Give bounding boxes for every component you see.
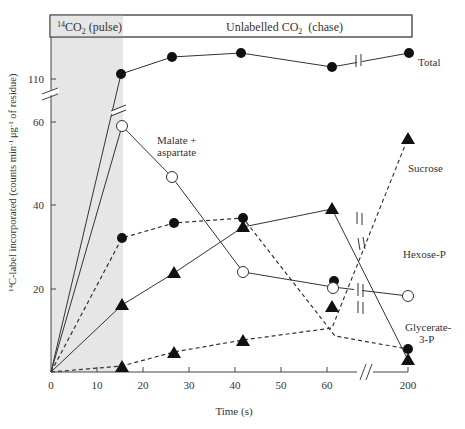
x-tick-label: 50 (276, 379, 288, 391)
x-tick-label: 60 (322, 379, 334, 391)
y-tick-label: 60 (33, 116, 45, 128)
markers-sucrose (115, 132, 415, 372)
pulse-shaded-region (51, 37, 123, 372)
x-tick-label: 0 (48, 379, 54, 391)
glycerate-break-icon (358, 301, 363, 314)
label-glycerate-line1: Glycerate- (405, 321, 452, 333)
markers-total (116, 48, 414, 79)
chase-label: Unlabelled CO2 (chase) (226, 20, 343, 36)
x-tick-label: 20 (138, 379, 150, 391)
y-axis-label: 14C-label incorporated (counts min-1μg-1… (7, 73, 19, 292)
y-tick-label: 40 (33, 199, 45, 211)
x-tick-label: 30 (184, 379, 196, 391)
x-tick-label: 10 (92, 379, 104, 391)
label-sucrose: Sucrose (408, 162, 443, 174)
chart: 14CO2 (pulse) Unlabelled CO2 (chase) 20 … (0, 0, 465, 429)
x-tick-label: 200 (400, 379, 417, 391)
label-malate-line2: aspartate (157, 146, 196, 158)
x-tick-label: 40 (230, 379, 242, 391)
markers-glycerate-3-p (117, 213, 413, 354)
y-tick-label: 20 (33, 283, 45, 295)
marker-malate-60 (328, 283, 339, 294)
label-hexose-p: Hexose-P (403, 248, 446, 260)
label-glycerate-line2: 3-P (419, 333, 434, 345)
label-total: Total (418, 56, 440, 68)
y-tick-label: 110 (28, 73, 45, 85)
x-axis-break-icon (357, 364, 373, 380)
pulse-label: 14CO2 (pulse) (57, 20, 122, 36)
label-malate-line1: Malate + (157, 134, 197, 146)
x-axis-label: Time (s) (215, 405, 253, 418)
